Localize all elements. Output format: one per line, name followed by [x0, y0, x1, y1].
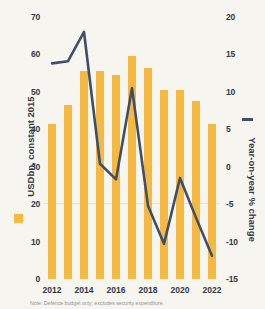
chart-container: 010203040506070 -15-10-505101520 USDbn, … [0, 0, 265, 309]
left-axis-tick-label: 70 [18, 12, 40, 22]
x-axis-tick-label: 2018 [139, 285, 158, 295]
right-axis-tick-label: 10 [226, 87, 252, 97]
plot-area [44, 17, 220, 279]
x-axis-tick-label: 2016 [107, 285, 126, 295]
left-axis-tick-label: 0 [18, 274, 40, 284]
x-axis-tick-label: 2020 [171, 285, 190, 295]
x-axis-tick-label: 2014 [75, 285, 94, 295]
bar-legend-swatch [14, 214, 23, 223]
line-series [44, 17, 220, 279]
left-axis-title: USDbn, constant 2015 [25, 57, 36, 237]
x-axis-tick-label: 2012 [43, 285, 62, 295]
chart-footnote: Note: Defence budget only; excludes secu… [30, 300, 164, 307]
left-axis-tick-label: 10 [18, 237, 40, 247]
x-axis-tick-label: 2022 [203, 285, 222, 295]
right-axis-title: Year-on-year % change [247, 100, 258, 280]
right-axis-tick-label: 20 [226, 12, 252, 22]
right-axis-tick-label: 15 [226, 49, 252, 59]
